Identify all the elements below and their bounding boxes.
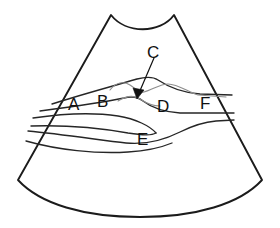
region-label-f: F <box>200 95 210 112</box>
region-label-b: B <box>97 93 108 110</box>
interface-line-faint-mid <box>118 97 160 106</box>
region-label-a: A <box>68 96 79 113</box>
region-label-c: C <box>147 44 159 61</box>
region-label-d: D <box>157 98 169 115</box>
c-leader-line <box>139 58 154 93</box>
interface-line-lower <box>28 120 234 143</box>
ultrasound-sector-figure: A B C D E F <box>0 0 280 228</box>
region-label-e: E <box>137 131 148 148</box>
sector-drawing-svg <box>0 0 280 228</box>
